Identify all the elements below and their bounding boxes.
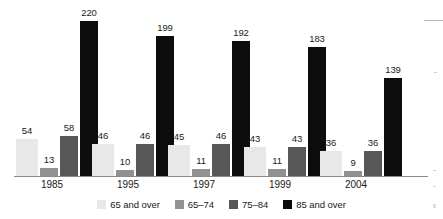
x-axis-tick-labels: 1985 1995 1997 1999 2004 — [0, 178, 443, 192]
bar-value-label: 46 — [204, 131, 238, 141]
bar-rect — [384, 78, 402, 177]
x-axis-tick-label: 2004 — [328, 178, 384, 191]
x-axis-baseline — [14, 176, 428, 177]
scan-artifact-mark — [434, 72, 437, 73]
bar-value-label: 192 — [224, 28, 258, 38]
scan-artifact-mark — [433, 186, 436, 187]
bar-value-label: 9 — [336, 158, 370, 168]
legend-item-label: 75–84 — [242, 199, 268, 210]
bar-value-label: 58 — [52, 123, 86, 133]
bar-value-label: 139 — [376, 65, 410, 75]
legend-swatch-icon — [283, 200, 292, 209]
legend-swatch-icon — [229, 200, 238, 209]
bar-group-1985 — [16, 0, 88, 177]
legend-item-65-and-over: 65 and over — [97, 199, 160, 210]
bar-value-label: 45 — [162, 132, 196, 142]
bar-value-label: 199 — [148, 23, 182, 33]
x-axis-tick-label: 1985 — [24, 178, 80, 191]
bar-value-label: 220 — [72, 8, 106, 18]
bar-2004-85-and-over[interactable] — [384, 78, 402, 177]
legend-item-label: 65 and over — [110, 199, 160, 210]
bar-value-label: 11 — [184, 156, 218, 166]
scan-artifact-line — [424, 20, 443, 21]
x-axis-tick-label: 1997 — [176, 178, 232, 191]
plot-area — [0, 0, 443, 177]
bar-value-label: 36 — [356, 138, 390, 148]
x-axis-tick-label: 1995 — [100, 178, 156, 191]
bar-value-label: 11 — [260, 156, 294, 166]
legend-swatch-icon — [97, 200, 106, 209]
legend: 65 and over 65–74 75–84 85 and over — [0, 196, 443, 212]
legend-item-label: 85 and over — [296, 199, 346, 210]
bar-value-label: 10 — [108, 157, 142, 167]
bar-value-label: 43 — [238, 134, 272, 144]
scan-artifact-mark — [433, 204, 436, 208]
bar-value-label: 183 — [300, 34, 334, 44]
x-axis-tick-label: 1999 — [252, 178, 308, 191]
bar-value-label: 46 — [128, 131, 162, 141]
legend-item-85-and-over: 85 and over — [283, 199, 346, 210]
bar-value-label: 46 — [86, 131, 120, 141]
bar-value-label: 43 — [280, 134, 314, 144]
legend-swatch-icon — [175, 200, 184, 209]
legend-item-75-84: 75–84 — [229, 199, 268, 210]
legend-item-label: 65–74 — [188, 199, 214, 210]
bar-group-2004 — [320, 0, 392, 177]
bar-value-label: 54 — [10, 126, 44, 136]
bar-chart: 1985 1995 1997 1999 2004 65 and over 65–… — [0, 0, 443, 219]
bar-value-label: 36 — [314, 138, 348, 148]
bar-value-label: 13 — [32, 155, 66, 165]
bar-group-1999 — [244, 0, 316, 177]
legend-item-65-74: 65–74 — [175, 199, 214, 210]
scan-artifact-mark — [433, 170, 436, 171]
